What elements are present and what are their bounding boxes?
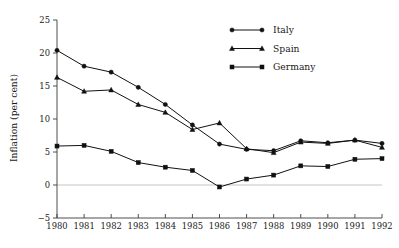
chart-canvas: Inflation (per cent) −50510152025 198019… xyxy=(0,0,399,248)
x-tick-label: 1983 xyxy=(128,221,149,231)
data-point-triangle xyxy=(136,102,141,107)
y-tick-label: 5 xyxy=(45,147,50,157)
y-tick-label: 25 xyxy=(39,15,50,25)
y-tick-label: 10 xyxy=(39,114,50,124)
legend-label: Germany xyxy=(273,61,316,72)
legend-item-germany: Germany xyxy=(230,61,316,72)
x-tick-label: 1980 xyxy=(46,221,67,231)
y-axis-ticks: −50510152025 xyxy=(38,15,57,223)
x-tick-label: 1990 xyxy=(317,221,338,231)
data-point-triangle xyxy=(55,75,60,80)
x-tick-label: 1991 xyxy=(344,221,365,231)
data-point-circle xyxy=(82,64,86,68)
data-point-square xyxy=(82,143,86,147)
legend-label: Italy xyxy=(273,24,295,35)
series-germany xyxy=(55,143,384,189)
inflation-line-chart: Inflation (per cent) −50510152025 198019… xyxy=(0,0,399,248)
x-axis-ticks: 1980198119821983198419851986198719881989… xyxy=(46,214,392,231)
y-tick-label: 15 xyxy=(39,81,50,91)
data-point-square xyxy=(109,149,113,153)
legend-item-spain: Spain xyxy=(230,43,300,54)
chart-legend: ItalySpainGermany xyxy=(230,24,317,72)
legend-item-italy: Italy xyxy=(230,24,295,35)
legend-label: Spain xyxy=(273,43,300,54)
data-point-square xyxy=(299,164,303,168)
data-point-square xyxy=(218,185,222,189)
data-point-square xyxy=(272,173,276,177)
x-tick-label: 1988 xyxy=(263,221,284,231)
data-point-circle xyxy=(55,48,59,52)
y-tick-label: 0 xyxy=(45,180,50,190)
data-point-square xyxy=(245,177,249,181)
data-point-circle xyxy=(260,28,264,32)
data-point-circle xyxy=(217,142,221,146)
data-point-square xyxy=(353,157,357,161)
series-line-spain xyxy=(57,77,382,152)
data-point-square xyxy=(163,165,167,169)
y-axis-title: Inflation (per cent) xyxy=(8,74,19,162)
x-tick-label: 1984 xyxy=(155,221,176,231)
x-tick-label: 1981 xyxy=(73,221,94,231)
data-series-group xyxy=(55,48,385,189)
series-line-germany xyxy=(57,145,382,187)
data-point-square xyxy=(260,65,264,69)
data-point-circle xyxy=(230,28,234,32)
series-italy xyxy=(55,48,384,153)
x-tick-label: 1992 xyxy=(371,221,392,231)
series-line-italy xyxy=(57,50,382,150)
data-point-circle xyxy=(109,70,113,74)
x-tick-label: 1982 xyxy=(101,221,122,231)
data-point-square xyxy=(326,165,330,169)
x-tick-label: 1986 xyxy=(209,221,230,231)
data-point-square xyxy=(380,157,384,161)
data-point-square xyxy=(190,168,194,172)
data-point-square xyxy=(230,65,234,69)
x-tick-label: 1989 xyxy=(290,221,311,231)
y-tick-label: 20 xyxy=(39,48,50,58)
data-point-square xyxy=(136,161,140,165)
data-point-circle xyxy=(190,123,194,127)
data-point-triangle xyxy=(217,120,222,125)
x-tick-label: 1987 xyxy=(236,221,257,231)
x-tick-label: 1985 xyxy=(182,221,203,231)
data-point-square xyxy=(55,144,59,148)
data-point-circle xyxy=(163,102,167,106)
data-point-circle xyxy=(136,85,140,89)
